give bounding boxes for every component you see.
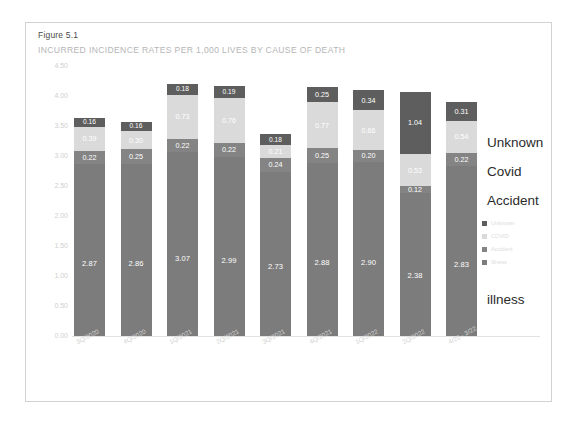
legend-label: Unknown <box>491 220 514 226</box>
bar-segment-illness[interactable]: 2.88 <box>307 163 338 336</box>
bar-segment-illness[interactable]: 2.86 <box>121 164 152 336</box>
legend-item[interactable]: Unknown <box>482 217 546 229</box>
bar-column[interactable]: 1.040.530.122.38 <box>400 92 431 336</box>
bar-column[interactable]: 0.340.660.202.90 <box>353 90 384 336</box>
bar-value-label: 0.21 <box>269 148 283 155</box>
bar-column[interactable]: 0.310.540.222.83 <box>446 102 477 336</box>
bar-segment-covid[interactable]: 0.21 <box>260 145 291 158</box>
bar-segment-unknown[interactable]: 0.18 <box>167 84 198 95</box>
bar-segment-covid[interactable]: 0.39 <box>74 127 105 150</box>
bar-series-group: 0.160.390.222.870.160.300.252.860.180.73… <box>74 66 494 336</box>
bar-segment-unknown[interactable]: 0.31 <box>446 102 477 121</box>
figure-subtitle: INCURRED INCIDENCE RATES PER 1,000 LIVES… <box>38 45 345 55</box>
bar-value-label: 0.12 <box>408 186 422 193</box>
x-axis-labels: 3Q/20204Q/20201Q/20212Q/20213Q/20214Q/20… <box>74 335 494 365</box>
bar-value-label: 0.25 <box>129 153 143 160</box>
y-axis-tick: 3.50 <box>40 122 68 129</box>
bar-value-label: 0.18 <box>176 86 189 93</box>
bar-column[interactable]: 0.190.760.222.99 <box>214 86 245 336</box>
bar-value-label: 2.87 <box>82 260 97 268</box>
bar-value-label: 0.31 <box>455 108 469 115</box>
legend-swatch-icon <box>482 260 487 265</box>
bar-segment-illness[interactable]: 2.38 <box>400 193 431 336</box>
bar-value-label: 2.90 <box>361 259 376 267</box>
bar-segment-illness[interactable]: 2.73 <box>260 172 291 336</box>
legend-label: Accident <box>491 246 512 252</box>
bar-segment-accident[interactable]: 0.20 <box>353 150 384 162</box>
y-axis-tick: 2.00 <box>40 212 68 219</box>
bar-value-label: 0.16 <box>83 119 96 126</box>
bar-segment-accident[interactable]: 0.24 <box>260 158 291 172</box>
bar-value-label: 0.53 <box>408 167 422 174</box>
legend-swatch-icon <box>482 234 487 239</box>
y-axis-tick: 3.00 <box>40 152 68 159</box>
bar-segment-unknown[interactable]: 0.16 <box>121 122 152 132</box>
y-axis-tick: 0.00 <box>40 332 68 339</box>
bar-value-label: 0.22 <box>83 154 97 161</box>
bar-segment-covid[interactable]: 0.76 <box>214 98 245 144</box>
bar-value-label: 0.20 <box>362 152 376 159</box>
bar-value-label: 2.99 <box>222 257 237 265</box>
y-axis-tick: 1.50 <box>40 242 68 249</box>
y-axis-tick: 1.00 <box>40 272 68 279</box>
bar-segment-accident[interactable]: 0.22 <box>446 153 477 166</box>
bar-segment-covid[interactable]: 0.54 <box>446 121 477 153</box>
bar-value-label: 0.19 <box>223 89 236 96</box>
bar-column[interactable]: 0.180.210.242.73 <box>260 134 291 336</box>
bar-value-label: 0.34 <box>362 97 376 104</box>
legend-label: Illness <box>491 259 507 265</box>
bar-value-label: 1.04 <box>408 119 422 126</box>
bar-segment-covid[interactable]: 0.66 <box>353 110 384 150</box>
bar-value-label: 0.25 <box>315 91 329 98</box>
figure-panel: Figure 5.1 INCURRED INCIDENCE RATES PER … <box>25 22 552 402</box>
bar-segment-accident[interactable]: 0.25 <box>121 149 152 164</box>
callout-unknown: Unknown <box>487 135 543 150</box>
bar-value-label: 2.83 <box>454 261 469 269</box>
bar-value-label: 0.77 <box>315 122 329 129</box>
bar-segment-covid[interactable]: 0.73 <box>167 95 198 139</box>
legend-item[interactable]: Accident <box>482 243 546 255</box>
legend-item[interactable]: Illness <box>482 256 546 268</box>
y-axis-tick: 4.50 <box>40 62 68 69</box>
legend-swatch-icon <box>482 221 487 226</box>
bar-column[interactable]: 0.250.770.252.88 <box>307 87 338 336</box>
figure-title: Figure 5.1 <box>38 30 78 40</box>
bar-segment-illness[interactable]: 3.07 <box>167 152 198 336</box>
bar-value-label: 0.73 <box>176 113 190 120</box>
bar-segment-accident[interactable]: 0.22 <box>214 143 245 156</box>
bar-value-label: 0.22 <box>455 156 469 163</box>
bar-segment-covid[interactable]: 0.53 <box>400 154 431 186</box>
bar-value-label: 0.24 <box>269 161 283 168</box>
bar-segment-accident[interactable]: 0.12 <box>400 186 431 193</box>
bar-value-label: 0.76 <box>222 117 236 124</box>
bar-segment-unknown[interactable]: 1.04 <box>400 92 431 154</box>
bar-value-label: 0.39 <box>83 135 97 142</box>
bar-segment-unknown[interactable]: 0.16 <box>74 118 105 128</box>
legend-item[interactable]: COVID <box>482 230 546 242</box>
bar-value-label: 2.73 <box>268 263 283 271</box>
bar-column[interactable]: 0.160.300.252.86 <box>121 122 152 336</box>
bar-value-label: 0.66 <box>362 127 376 134</box>
bar-value-label: 0.54 <box>455 133 469 140</box>
bar-segment-unknown[interactable]: 0.18 <box>260 134 291 145</box>
bar-segment-illness[interactable]: 2.90 <box>353 162 384 336</box>
bar-segment-accident[interactable]: 0.22 <box>74 151 105 164</box>
bar-segment-unknown[interactable]: 0.34 <box>353 90 384 110</box>
legend-label: COVID <box>491 233 509 239</box>
bar-segment-accident[interactable]: 0.22 <box>167 139 198 152</box>
bar-segment-covid[interactable]: 0.30 <box>121 131 152 149</box>
bar-segment-covid[interactable]: 0.77 <box>307 102 338 148</box>
bar-segment-accident[interactable]: 0.25 <box>307 148 338 163</box>
bar-segment-illness[interactable]: 2.99 <box>214 157 245 336</box>
bar-segment-illness[interactable]: 2.83 <box>446 166 477 336</box>
legend-swatch-icon <box>482 247 487 252</box>
bar-column[interactable]: 0.180.730.223.07 <box>167 84 198 336</box>
bar-value-label: 0.22 <box>222 146 236 153</box>
bar-value-label: 0.18 <box>269 137 282 144</box>
bar-segment-illness[interactable]: 2.87 <box>74 164 105 336</box>
bar-segment-unknown[interactable]: 0.19 <box>214 86 245 97</box>
bar-segment-unknown[interactable]: 0.25 <box>307 87 338 102</box>
y-axis-tick: 0.50 <box>40 302 68 309</box>
bar-value-label: 0.30 <box>129 137 143 144</box>
bar-column[interactable]: 0.160.390.222.87 <box>74 118 105 336</box>
